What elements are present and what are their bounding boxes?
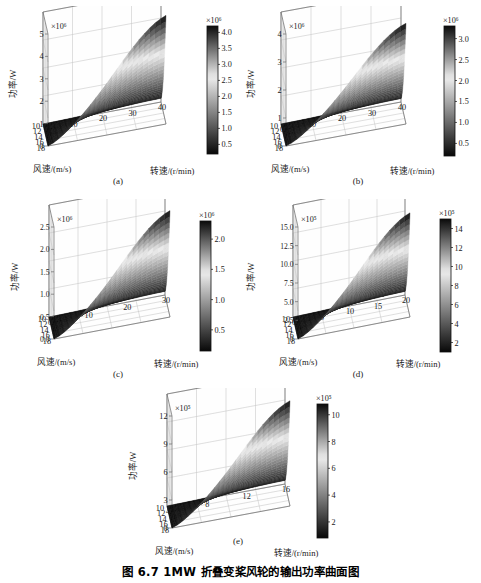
panel-label-e: (e) [218, 536, 258, 546]
svg-text:2: 2 [332, 518, 336, 527]
surface-plot-d: 02.55.07.510.012.515.0×10⁵18161412100510… [240, 199, 481, 374]
svg-text:5.0: 5.0 [284, 298, 294, 307]
svg-text:6: 6 [332, 464, 336, 473]
svg-text:0.5: 0.5 [459, 139, 469, 148]
svg-text:功率/W: 功率/W [245, 262, 256, 291]
svg-text:7.5: 7.5 [284, 279, 294, 288]
svg-text:1.5: 1.5 [215, 265, 225, 274]
svg-text:×10⁶: ×10⁶ [443, 16, 459, 25]
figure-caption: 图 6.7 1MW 折叠变桨风轮的输出功率曲面图 [0, 563, 481, 579]
svg-text:2.5: 2.5 [40, 223, 50, 232]
svg-text:4: 4 [166, 507, 170, 516]
svg-text:3: 3 [163, 496, 167, 505]
svg-text:8: 8 [455, 282, 459, 291]
svg-text:14: 14 [455, 225, 463, 234]
svg-text:风速/(m/s): 风速/(m/s) [33, 164, 72, 174]
svg-text:15.0: 15.0 [280, 223, 293, 232]
svg-text:转速/(r/min): 转速/(r/min) [274, 547, 319, 558]
svg-text:12: 12 [243, 492, 251, 501]
svg-text:0: 0 [280, 125, 284, 134]
svg-text:1.0: 1.0 [459, 118, 469, 127]
svg-text:2: 2 [277, 86, 281, 95]
svg-text:3.0: 3.0 [222, 60, 232, 69]
svg-text:3: 3 [39, 75, 43, 84]
svg-text:2.0: 2.0 [222, 92, 232, 101]
panel-label-b: (b) [338, 176, 378, 186]
figure-container: 012345×10⁶181614121010203040功率/W风速/(m/s)… [0, 0, 481, 583]
svg-text:2.0: 2.0 [215, 235, 225, 244]
svg-text:转速/(r/min): 转速/(r/min) [154, 358, 199, 369]
svg-text:功率/W: 功率/W [9, 262, 20, 291]
svg-text:9: 9 [163, 440, 167, 449]
svg-text:风速/(m/s): 风速/(m/s) [271, 164, 310, 174]
svg-text:12: 12 [159, 412, 167, 421]
svg-text:8: 8 [205, 500, 209, 509]
svg-text:功率/W: 功率/W [127, 451, 138, 480]
svg-text:转速/(r/min): 转速/(r/min) [396, 358, 441, 369]
svg-text:20: 20 [123, 303, 131, 312]
panel-label-d: (d) [338, 369, 378, 379]
svg-text:1: 1 [277, 114, 281, 123]
svg-text:10: 10 [270, 122, 278, 131]
svg-text:8: 8 [332, 438, 336, 447]
svg-text:40: 40 [398, 103, 406, 112]
svg-text:10: 10 [85, 311, 93, 320]
svg-text:4: 4 [332, 491, 336, 500]
svg-text:×10⁶: ×10⁶ [206, 16, 222, 25]
svg-text:15: 15 [374, 302, 382, 311]
svg-text:×10⁵: ×10⁵ [301, 215, 317, 224]
svg-text:×10⁶: ×10⁶ [289, 22, 305, 31]
svg-text:10: 10 [455, 263, 463, 272]
svg-text:×10⁶: ×10⁶ [57, 215, 73, 224]
svg-text:2.0: 2.0 [40, 245, 50, 254]
svg-text:30: 30 [128, 109, 136, 118]
svg-text:功率/W: 功率/W [7, 69, 18, 98]
svg-text:功率/W: 功率/W [245, 69, 256, 98]
svg-text:1.0: 1.0 [40, 290, 50, 299]
svg-text:1.5: 1.5 [222, 108, 232, 117]
panel-label-a: (a) [98, 176, 138, 186]
svg-text:×10⁵: ×10⁵ [439, 209, 455, 218]
svg-text:10: 10 [32, 122, 40, 131]
surface-plot-c: 0.00.51.01.52.02.5×10⁶18161412100102030功… [0, 199, 241, 374]
svg-text:0.5: 0.5 [215, 326, 225, 335]
svg-text:2: 2 [39, 97, 43, 106]
svg-text:10: 10 [346, 307, 354, 316]
svg-text:10: 10 [282, 315, 290, 324]
svg-text:20: 20 [99, 114, 107, 123]
svg-text:3.0: 3.0 [459, 35, 469, 44]
svg-text:3.5: 3.5 [222, 44, 232, 53]
svg-text:10: 10 [69, 120, 77, 129]
svg-text:10.0: 10.0 [280, 260, 293, 269]
svg-text:1.5: 1.5 [459, 97, 469, 106]
svg-text:16: 16 [282, 485, 290, 494]
svg-text:4.0: 4.0 [222, 28, 232, 37]
svg-text:2.0: 2.0 [459, 77, 469, 86]
svg-text:0: 0 [292, 318, 296, 327]
svg-text:×10⁵: ×10⁵ [175, 404, 191, 413]
svg-text:30: 30 [368, 109, 376, 118]
svg-text:6: 6 [455, 301, 459, 310]
svg-text:3: 3 [277, 58, 281, 67]
svg-text:1.0: 1.0 [222, 124, 232, 133]
svg-text:×10⁶: ×10⁶ [199, 211, 215, 220]
svg-text:20: 20 [338, 114, 346, 123]
svg-text:转速/(r/min): 转速/(r/min) [150, 165, 195, 176]
svg-text:5: 5 [39, 30, 43, 39]
svg-text:风速/(m/s): 风速/(m/s) [37, 357, 76, 367]
surface-plot-b: 01234×10⁶1816141210010203040功率/W风速/(m/s)… [240, 6, 481, 181]
svg-text:40: 40 [158, 103, 166, 112]
svg-text:12.5: 12.5 [280, 242, 293, 251]
svg-text:20: 20 [402, 296, 410, 305]
svg-text:30: 30 [162, 296, 170, 305]
svg-text:转速/(r/min): 转速/(r/min) [390, 165, 435, 176]
svg-text:0.5: 0.5 [222, 140, 232, 149]
surface-plot-a: 012345×10⁶181614121010203040功率/W风速/(m/s)… [0, 6, 241, 181]
svg-text:4: 4 [455, 320, 459, 329]
svg-text:5: 5 [320, 313, 324, 322]
svg-text:2: 2 [455, 339, 459, 348]
svg-text:10: 10 [332, 411, 340, 420]
svg-text:12: 12 [455, 244, 463, 253]
panel-label-c: (c) [98, 369, 138, 379]
svg-text:×10⁵: ×10⁵ [316, 394, 332, 403]
